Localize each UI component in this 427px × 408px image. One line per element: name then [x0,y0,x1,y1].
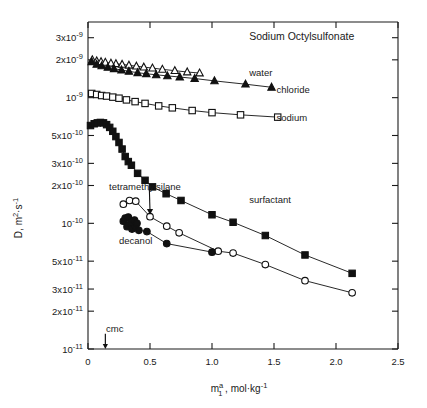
data-point-filled-circle [144,228,151,235]
data-point-filled-square [178,197,184,203]
data-point-open-square [142,100,148,106]
y-tick-label: 2x10-11 [52,304,83,317]
series-sodium [89,90,281,120]
series-label-tetramethylsilane: tetramethylsilane [109,181,181,192]
data-point-open-square [155,103,161,109]
x-tick-label: 1.0 [205,356,218,367]
data-point-filled-square [128,162,134,168]
data-point-open-square [132,98,138,104]
y-tick-label: 2x10-10 [52,178,83,191]
y-tick-label: 3x10-9 [56,30,83,43]
x-tick-label: 0.5 [143,356,156,367]
annotations: waterchloridesodiumsurfactanttetramethyl… [103,67,310,349]
data-point-filled-circle [209,249,216,256]
y-tick-label: 3x10-11 [52,282,83,295]
data-point-filled-circle [163,240,170,247]
y-tick-label: 2x10-9 [56,52,83,65]
x-tick-label: 2.5 [391,356,404,367]
data-point-open-square [237,112,243,118]
data-point-filled-square [302,252,308,258]
y-tick-label: 10-9 [66,90,83,103]
data-point-open-square [169,105,175,111]
data-point-open-circle [126,197,133,204]
x-tick-label: 1.5 [267,356,280,367]
data-point-open-circle [302,277,309,284]
data-point-filled-square [209,212,215,218]
data-point-open-circle [215,248,222,255]
series-tetramethylsilane [120,197,355,296]
x-axis-ticks: 00.51.01.52.02.5 [85,22,404,367]
y-axis-ticks: 3x10-92x10-910-95x10-103x10-102x10-1010-… [52,30,398,354]
data-point-open-circle [262,261,269,268]
y-tick-label: 10-10 [62,216,83,229]
data-point-filled-square [116,139,122,145]
data-point-open-circle [120,201,127,208]
data-point-filled-square [119,146,125,152]
series-label-sodium: sodium [276,112,307,123]
y-axis-label: D, m2·s-1 [11,198,24,238]
series-label-decanol: decanol [119,235,152,246]
data-point-open-circle [176,230,183,237]
y-tick-label: 3x10-10 [52,156,83,169]
series-line-tetramethylsilane [123,200,352,292]
scatter-plot: 3x10-92x10-910-95x10-103x10-102x10-1010-… [0,0,427,408]
data-point-open-square [116,95,122,101]
data-point-open-circle [132,198,139,205]
data-point-filled-square [262,232,268,238]
data-point-open-square [103,93,109,99]
data-point-filled-circle [125,214,132,221]
data-point-open-square [209,109,215,115]
series-label-surfactant: surfactant [249,194,291,205]
data-point-open-circle [163,223,170,230]
series-label-water: water [248,67,272,78]
cmc-label: cmc [106,323,124,334]
x-axis-label: ma1 , mol·kg-1 [211,381,268,398]
cmc-arrowhead [103,344,108,349]
y-tick-label: 10-11 [62,342,83,355]
data-point-open-square [110,94,116,100]
tms-pointer-line [149,190,150,211]
data-point-open-circle [230,250,237,257]
data-point-filled-circle [136,227,143,234]
y-tick-label: 5x10-11 [52,254,83,267]
y-tick-label: 5x10-10 [52,128,83,141]
data-point-filled-square [134,170,140,176]
data-point-filled-square [230,219,236,225]
data-point-filled-circle [134,220,141,227]
data-point-open-circle [349,290,356,297]
figure-root: 3x10-92x10-910-95x10-103x10-102x10-1010-… [0,0,427,408]
data-point-open-square [189,107,195,113]
x-tick-label: 0 [85,356,90,367]
data-point-filled-square [349,270,355,276]
series-label-chloride: chloride [276,84,309,95]
x-tick-label: 2.0 [329,356,342,367]
chart-title: Sodium Octylsulfonate [249,30,354,42]
data-point-open-square [123,97,129,103]
